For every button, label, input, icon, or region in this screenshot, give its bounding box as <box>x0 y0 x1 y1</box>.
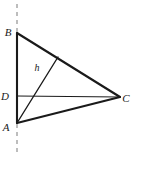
triangle-side-ac <box>17 97 120 123</box>
figure-canvas: B D A C h <box>0 0 143 173</box>
vertex-label-a: A <box>2 121 10 133</box>
vertex-label-c: C <box>122 92 130 104</box>
vertex-label-d: D <box>0 90 9 102</box>
triangle-side-bc <box>17 33 120 97</box>
vertex-label-b: B <box>5 26 12 38</box>
geometry-figure: B D A C h <box>0 0 143 173</box>
altitude-label-h: h <box>35 62 40 73</box>
